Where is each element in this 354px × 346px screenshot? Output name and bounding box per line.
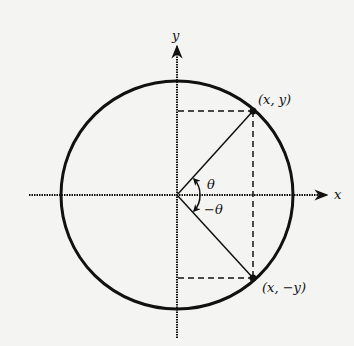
- point-label-x-y: (x, y): [258, 92, 291, 107]
- unit-circle-diagram: y x (x, y) (x, −y) θ −θ: [0, 0, 354, 346]
- x-axis-label: x: [334, 187, 342, 202]
- angle-arc-theta: [194, 179, 200, 195]
- point-x-y: [250, 108, 257, 115]
- point-x-neg-y: [250, 275, 257, 282]
- point-label-x-neg-y: (x, −y): [262, 280, 306, 295]
- angle-label-theta: θ: [207, 177, 215, 192]
- y-axis-label: y: [171, 28, 180, 43]
- angle-arc-neg-theta: [194, 195, 200, 211]
- angle-label-neg-theta: −θ: [204, 202, 223, 217]
- radius-to-p1: [177, 111, 253, 195]
